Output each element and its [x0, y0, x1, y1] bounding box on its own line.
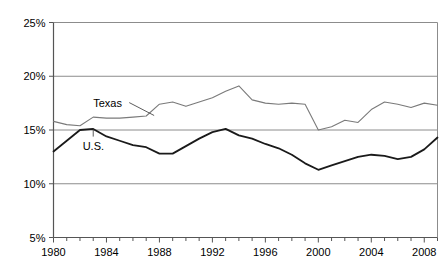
x-axis-ticks: [54, 238, 438, 243]
x-axis-tick-label: 1996: [253, 246, 277, 258]
x-axis-tick-label: 1992: [200, 246, 224, 258]
x-axis-tick-label: 2000: [306, 246, 330, 258]
y-axis-tick-label: 5%: [30, 232, 46, 244]
series-label-texas: Texas: [93, 97, 122, 109]
series-annotations: TexasU.S.: [83, 97, 154, 152]
x-axis-tick-label: 2008: [412, 246, 436, 258]
series-label-u-s: U.S.: [83, 140, 104, 152]
y-axis-tick-label: 20%: [23, 70, 45, 82]
y-axis-ticks: [49, 23, 54, 238]
x-axis-tick-label: 1984: [94, 246, 118, 258]
y-axis-tick-label: 15%: [23, 124, 45, 136]
x-axis-tick-label: 1988: [147, 246, 171, 258]
y-axis-tick-labels: 5%10%15%20%25%: [23, 17, 45, 244]
x-axis-tick-label: 1980: [41, 246, 65, 258]
y-axis-tick-label: 10%: [23, 178, 45, 190]
leader-line-texas: [129, 103, 154, 116]
y-axis-tick-label: 25%: [23, 17, 45, 29]
x-axis-tick-label: 2004: [359, 246, 383, 258]
x-axis-tick-labels: 19801984198819921996200020042008: [41, 246, 436, 258]
chart-container: 5%10%15%20%25% 1980198419881992199620002…: [0, 0, 448, 276]
line-chart: 5%10%15%20%25% 1980198419881992199620002…: [0, 0, 448, 276]
series-line-u-s: [54, 129, 438, 170]
